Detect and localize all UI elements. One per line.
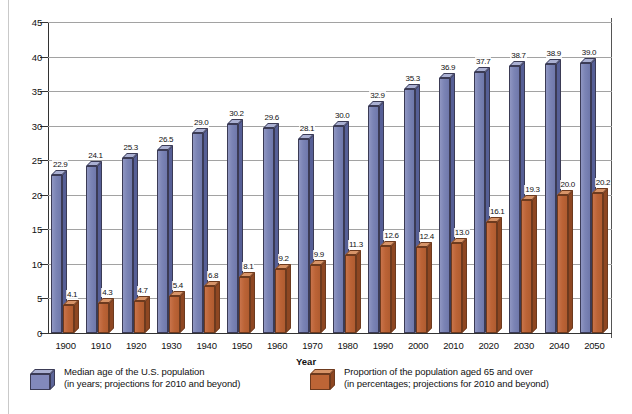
legend-item-median-age: Median age of the U.S. population (in ye… [30,366,240,390]
bar-face [521,200,532,333]
bar-proportion-65-over [345,255,356,333]
bar-value-label: 38.7 [510,51,526,60]
bar-value-label: 22.9 [52,160,68,169]
bar-face [509,66,520,333]
bar-proportion-65-over [557,195,568,333]
bar-face [592,193,603,333]
bar-value-label: 16.1 [489,207,505,216]
bar-chart: 051015202530354045 22.924.125.326.529.03… [0,0,632,356]
bar-value-label: 19.3 [524,185,540,194]
bar-median-age [298,139,309,333]
bar-value-label: 32.9 [369,91,385,100]
bar-face [263,128,274,333]
bar-face [310,265,321,333]
bar-value-label: 24.1 [87,151,103,160]
bar-face [157,150,168,333]
bar-side [286,264,291,333]
bar-value-label: 4.1 [66,290,78,299]
blue-cube-icon [30,368,56,390]
bar-value-label: 29.6 [264,113,280,122]
bar-median-age [122,158,133,333]
y-tick-label: 45 [14,17,42,28]
bar-face [298,139,309,333]
bar-value-label: 28.1 [299,124,315,133]
bar-value-label: 30.2 [228,109,244,118]
bar-value-label: 38.9 [546,49,562,58]
bar-value-label: 4.7 [137,286,149,295]
y-tick-label: 20 [14,189,42,200]
bar-proportion-65-over [416,247,427,333]
bar-face [134,301,145,333]
bar-side [568,190,573,333]
bar-side [180,291,185,333]
bar-median-age [580,63,591,333]
bar-value-label: 25.3 [123,143,139,152]
bar-side [532,195,537,333]
bar-face [345,255,356,333]
bar-side [215,281,220,333]
bar-value-label: 36.9 [440,63,456,72]
gridline [48,57,612,58]
y-tick-label: 35 [14,86,42,97]
bar-proportion-65-over [592,193,603,333]
bar-face [474,72,485,333]
bar-face [51,175,62,333]
gridline [48,126,612,127]
bar-median-age [404,89,415,333]
y-tick-label: 40 [14,51,42,62]
bar-face [380,246,391,333]
bar-proportion-65-over [451,243,462,333]
bar-face [486,222,497,333]
bar-value-label: 30.0 [334,111,350,120]
bar-face [416,247,427,333]
bar-side [109,298,114,333]
bar-median-age [86,166,97,333]
bar-value-label: 5.4 [172,281,184,290]
bar-median-age [51,175,62,333]
bar-proportion-65-over [486,222,497,333]
bar-face [122,158,133,333]
legend-item-proportion-65-over: Proportion of the population aged 65 and… [310,366,549,390]
bar-value-label: 26.5 [158,135,174,144]
legend-line-2: (in years; projections for 2010 and beyo… [64,378,240,389]
bar-value-label: 12.4 [419,232,435,241]
legend-line-2: (in percentages; projections for 2010 an… [344,378,549,389]
bar-median-age [192,133,203,333]
bar-side [356,250,361,333]
bar-side [145,296,150,333]
bar-face [192,133,203,333]
bar-value-label: 11.3 [348,240,364,249]
bar-face [204,286,215,333]
chart-legend: Median age of the U.S. population (in ye… [0,366,632,406]
y-tick-label: 25 [14,155,42,166]
bar-median-age [474,72,485,333]
bar-value-label: 9.9 [313,250,325,259]
bar-value-label: 8.1 [242,262,254,271]
bar-face [333,126,344,333]
x-tick-label: 2050 [573,340,616,351]
bar-median-age [227,124,238,333]
bar-value-label: 37.7 [475,57,491,66]
y-axis-line [48,22,49,333]
bar-proportion-65-over [380,246,391,333]
bar-side [427,242,432,333]
bar-side [321,260,326,333]
bar-value-label: 39.0 [581,48,597,57]
bar-side [74,300,79,333]
y-tick-label: 5 [14,293,42,304]
bar-face [227,124,238,333]
gridline [48,22,612,23]
bar-face [86,166,97,333]
bar-face [451,243,462,333]
bar-face [368,106,379,333]
legend-line-1: Proportion of the population aged 65 and… [344,366,533,377]
bar-face [239,277,250,333]
bar-value-label: 13.0 [454,228,470,237]
bar-value-label: 12.6 [383,231,399,240]
bar-face [557,195,568,333]
bar-face [545,64,556,333]
bar-proportion-65-over [63,305,74,333]
bar-proportion-65-over [275,269,286,333]
bar-median-age [509,66,520,333]
bar-value-label: 29.0 [193,118,209,127]
